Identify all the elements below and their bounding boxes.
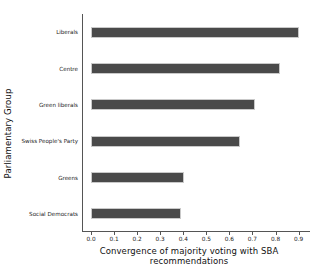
bar	[91, 99, 255, 110]
bar	[91, 63, 280, 74]
bar	[91, 27, 299, 38]
x-axis-tick-label: 0.6	[219, 236, 239, 242]
y-axis-tick-label: Green liberals	[12, 102, 78, 108]
x-axis-title: Convergence of majority voting with SBA …	[60, 246, 318, 266]
x-axis-tick-label: 0.9	[289, 236, 309, 242]
x-axis-tick-label: 0.8	[266, 236, 286, 242]
y-axis-tick-label: Liberals	[12, 29, 78, 35]
bar-chart-figure: Parliamentary Group LiberalsCentreGreen …	[0, 0, 320, 267]
plot-area	[82, 14, 310, 232]
x-axis-tick-mark	[276, 232, 277, 235]
x-axis-tick-label: 0.5	[196, 236, 216, 242]
y-axis-tick-label: Greens	[12, 175, 78, 181]
x-axis-tick-mark	[137, 232, 138, 235]
x-axis-tick-label: 0.3	[150, 236, 170, 242]
y-axis-tick-label: Social Democrats	[12, 211, 78, 217]
y-axis-tick-label: Swiss People's Party	[12, 138, 78, 144]
x-axis-tick-mark	[183, 232, 184, 235]
x-axis-tick-label: 0.1	[104, 236, 124, 242]
x-axis-tick-label: 0.7	[242, 236, 262, 242]
bar	[91, 172, 184, 183]
x-axis-tick-mark	[252, 232, 253, 235]
x-axis-tick-mark	[114, 232, 115, 235]
x-axis-tick-mark	[91, 232, 92, 235]
x-axis-tick-label: 0.2	[127, 236, 147, 242]
x-axis-tick-mark	[206, 232, 207, 235]
bar	[91, 208, 181, 219]
x-axis-tick-label: 0.0	[81, 236, 101, 242]
y-axis-tick-label: Centre	[12, 66, 78, 72]
x-axis-tick-label: 0.4	[173, 236, 193, 242]
x-axis-tick-mark	[160, 232, 161, 235]
x-axis-tick-mark	[229, 232, 230, 235]
y-axis-line	[82, 14, 83, 232]
bar	[91, 136, 240, 147]
x-axis-tick-mark	[299, 232, 300, 235]
y-axis-tick-labels: LiberalsCentreGreen liberalsSwiss People…	[14, 14, 80, 232]
